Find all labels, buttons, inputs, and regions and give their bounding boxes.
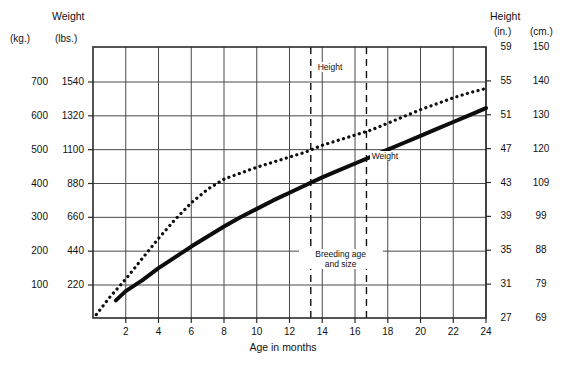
- plot-area: [0, 0, 566, 365]
- left-axis-kg-tick-400: 400: [12, 179, 48, 189]
- weight-series-label: Weight: [370, 151, 400, 161]
- growth-chart: (kg.) Weight (lbs.) Height (in.) (cm.) 1…: [0, 0, 566, 365]
- right-axis-in-tick-27: 27: [496, 313, 516, 323]
- breeding-range-line1: Breeding age: [315, 249, 366, 259]
- left-axis-kg-tick-500: 500: [12, 145, 48, 155]
- x-axis-tick-16: 16: [343, 327, 367, 337]
- right-axis-in-tick-35: 35: [496, 245, 516, 255]
- x-axis-tick-14: 14: [310, 327, 334, 337]
- right-axis-in-tick-51: 51: [496, 110, 516, 120]
- x-axis-tick-6: 6: [179, 327, 203, 337]
- right-axis-in-tick-47: 47: [496, 144, 516, 154]
- right-axis-cm-tick-140: 140: [528, 76, 554, 86]
- x-axis-tick-8: 8: [212, 327, 236, 337]
- right-axis-cm-tick-79: 79: [528, 279, 554, 289]
- left-axis-kg-tick-700: 700: [12, 77, 48, 87]
- height-series-label: Height: [316, 62, 345, 72]
- x-axis-tick-10: 10: [245, 327, 269, 337]
- breeding-range-label: Breeding age and size: [299, 249, 383, 269]
- left-axis-kg-tick-100: 100: [12, 280, 48, 290]
- left-axis-lbs-tick-440: 440: [48, 246, 84, 256]
- right-axis-in-tick-39: 39: [496, 211, 516, 221]
- left-axis-lbs-tick-1320: 1320: [48, 111, 84, 121]
- left-axis-kg-tick-300: 300: [12, 212, 48, 222]
- left-axis-lbs-tick-1540: 1540: [48, 77, 84, 87]
- right-axis-cm-tick-88: 88: [528, 245, 554, 255]
- right-axis-in-tick-31: 31: [496, 279, 516, 289]
- right-axis-cm-tick-69: 69: [528, 313, 554, 323]
- right-axis-cm-tick-130: 130: [528, 110, 554, 120]
- right-axis-cm-tick-120: 120: [528, 144, 554, 154]
- left-axis-kg-tick-200: 200: [12, 246, 48, 256]
- x-axis-tick-20: 20: [409, 327, 433, 337]
- right-axis-in-tick-55: 55: [496, 76, 516, 86]
- grid-lines: [93, 47, 486, 318]
- data-series: [96, 89, 486, 315]
- x-axis-tick-24: 24: [474, 327, 498, 337]
- x-axis-tick-2: 2: [114, 327, 138, 337]
- right-axis-in-tick-59: 59: [496, 42, 516, 52]
- left-axis-lbs-tick-220: 220: [48, 280, 84, 290]
- left-axis-lbs-tick-660: 660: [48, 212, 84, 222]
- x-axis-title: Age in months: [0, 341, 566, 353]
- right-axis-cm-tick-109: 109: [528, 178, 554, 188]
- x-axis-tick-4: 4: [147, 327, 171, 337]
- right-axis-in-tick-43: 43: [496, 178, 516, 188]
- x-axis-tick-22: 22: [441, 327, 465, 337]
- left-axis-kg-tick-600: 600: [12, 111, 48, 121]
- left-axis-lbs-tick-1100: 1100: [48, 145, 84, 155]
- right-axis-cm-tick-99: 99: [528, 211, 554, 221]
- x-axis-tick-12: 12: [278, 327, 302, 337]
- breeding-range-line2: and size: [325, 259, 357, 269]
- breeding-range-markers: [311, 47, 367, 318]
- right-axis-cm-tick-150: 150: [528, 42, 554, 52]
- left-axis-lbs-tick-880: 880: [48, 179, 84, 189]
- x-axis-tick-18: 18: [376, 327, 400, 337]
